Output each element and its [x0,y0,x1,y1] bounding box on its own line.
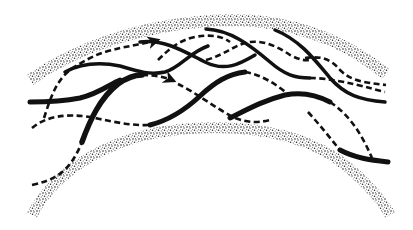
strand-7d-dashed [310,78,385,92]
strand-5-dashed [142,75,174,81]
strand-2b-solid [140,41,255,66]
strand-7c-dashed [245,72,290,96]
strand-3c-solid [230,94,330,118]
strand-8b-dashed [330,102,372,158]
diagram-canvas [0,0,413,230]
inner-wall [32,128,390,215]
diagram-svg [0,0,413,230]
